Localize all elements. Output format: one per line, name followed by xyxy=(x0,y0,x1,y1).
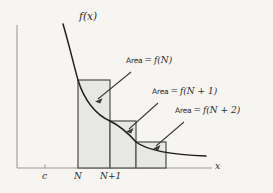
callout-2-area-word: Area xyxy=(152,87,168,96)
callout-1-value: f(N) xyxy=(154,55,172,65)
rect-N-plus-2 xyxy=(136,142,166,168)
callout-area-f-N-plus-1: Area=f(N + 1) xyxy=(152,87,217,96)
callout-area-f-N: Area=f(N) xyxy=(126,56,172,65)
x-axis-label: x xyxy=(215,162,220,171)
callout-3-area-word: Area xyxy=(175,106,191,115)
rect-N-plus-1 xyxy=(110,121,136,168)
callout-3-equals: = xyxy=(191,105,203,115)
callout-2-equals: = xyxy=(168,86,180,96)
callout-1-equals: = xyxy=(142,55,154,65)
callout-area-f-N-plus-2: Area=f(N + 2) xyxy=(175,106,240,115)
callout-2-value: f(N + 1) xyxy=(180,86,217,96)
tick-label-N: N xyxy=(74,172,82,181)
callout-1-area-word: Area xyxy=(126,56,142,65)
integral-test-figure xyxy=(0,0,273,193)
callout-3-value: f(N + 2) xyxy=(203,105,240,115)
curve-label-fx: f(x) xyxy=(79,11,97,22)
tick-label-c: c xyxy=(42,172,47,181)
tick-label-N-plus-1: N+1 xyxy=(100,172,121,181)
